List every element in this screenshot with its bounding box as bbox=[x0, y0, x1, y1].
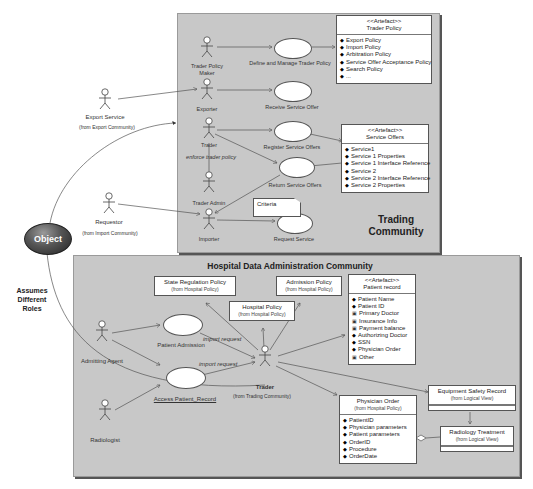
import-request-label-1: import request bbox=[203, 336, 241, 343]
list-item: Import Policy bbox=[340, 44, 429, 51]
enforce-trader-policy-label: enforce trader policy bbox=[186, 154, 236, 161]
actor-trader-admin-icon bbox=[202, 171, 216, 193]
use-case-register-service-offers[interactable] bbox=[274, 121, 312, 142]
use-case-define-manage-policy-label: Define and Manage Trader Policy bbox=[249, 60, 331, 67]
trading-community-title: Trading Community bbox=[358, 214, 434, 238]
actor-trader-policy-maker-icon bbox=[200, 36, 214, 58]
admission-policy[interactable]: Admission Policy (from Hospital Policy) bbox=[276, 276, 342, 296]
list-item: SSN bbox=[352, 339, 413, 346]
patient-record-items: Patient Name Patient ID Primary Doctor I… bbox=[349, 294, 415, 364]
list-item: Search Policy bbox=[340, 66, 429, 73]
state-regulation-policy[interactable]: State Regulation Policy (from Hospital P… bbox=[154, 276, 236, 296]
actor-trader-hospital-icon bbox=[258, 345, 272, 367]
actor-importer-icon bbox=[202, 208, 216, 230]
importer-label: Importer bbox=[199, 236, 219, 243]
actor-requestor-icon bbox=[102, 192, 116, 214]
patient-record-artifact[interactable]: <<Artefact>> Patient record Patient Name… bbox=[348, 274, 416, 365]
list-item: Authorizing Doctor bbox=[352, 332, 413, 339]
use-case-register-service-offers-label: Register Service Offers bbox=[264, 144, 321, 151]
list-item: Service1 bbox=[345, 146, 426, 153]
trader-policy-maker-label: Trader Policy Maker bbox=[191, 63, 223, 77]
equipment-safety-record-class[interactable]: Equipment Safety Record (from Logical Vi… bbox=[428, 385, 516, 411]
trader-label: Trader bbox=[201, 142, 217, 149]
list-item: Procedure bbox=[343, 446, 414, 453]
trader-hospital-from: (from Trading Community) bbox=[233, 393, 291, 400]
list-item: Physician Order bbox=[352, 346, 413, 353]
actor-exporter-icon bbox=[200, 78, 214, 100]
use-case-receive-service-offer-label: Receive Service Offer bbox=[265, 104, 318, 111]
radiology-treatment-class[interactable]: Radiology Treatment (from Logical View) bbox=[440, 426, 514, 452]
list-item: Patient Name bbox=[352, 296, 413, 303]
actor-admitting-agent-icon bbox=[95, 320, 109, 342]
radiologist-label: Radiologist bbox=[90, 437, 120, 444]
list-item: Export Policy bbox=[340, 37, 429, 44]
list-item: Service 2 bbox=[345, 168, 426, 175]
admitting-agent-label: Admitting Agent bbox=[81, 358, 123, 365]
requestor-from: (from Import Community) bbox=[82, 230, 138, 237]
list-item: Physician parameters bbox=[343, 424, 414, 431]
trader-hospital-label: Trader bbox=[256, 384, 274, 391]
trader-policy-items: Export Policy Import Policy Arbitration … bbox=[337, 35, 431, 83]
use-case-return-service-offers-label: Return Service Offers bbox=[269, 182, 322, 189]
export-service-label: Export Service bbox=[85, 114, 124, 121]
use-case-request-service-label: Request Service bbox=[274, 236, 314, 243]
use-case-define-manage-policy[interactable] bbox=[274, 38, 312, 59]
list-item: Patient parameters bbox=[343, 431, 414, 438]
criteria-note: Criteria bbox=[253, 198, 301, 217]
trader-admin-label: Trader Admin bbox=[193, 200, 226, 207]
list-item: PatientID bbox=[343, 417, 414, 424]
list-item: Service 2 Interface Reference bbox=[345, 175, 426, 182]
use-case-return-service-offers[interactable] bbox=[279, 157, 315, 178]
actor-radiologist-icon bbox=[98, 399, 112, 421]
list-item: OrderID bbox=[343, 439, 414, 446]
object-node: Object bbox=[24, 223, 72, 255]
list-item: Service 2 Properties bbox=[345, 182, 426, 189]
assumes-roles-caption: Assumes Different Roles bbox=[16, 286, 47, 313]
use-case-patient-admission-label: Patient Admission bbox=[157, 342, 205, 349]
list-item-locked: Primary Doctor bbox=[352, 310, 413, 317]
list-item: Service Offer Acceptance Policy bbox=[340, 59, 429, 66]
requestor-label: Requestor bbox=[95, 219, 123, 226]
list-item: Service 1 Interface Reference bbox=[345, 160, 426, 167]
export-service-from: (from Export Community) bbox=[79, 124, 135, 131]
list-item: OrderDate bbox=[343, 453, 414, 460]
list-item: Patient ID bbox=[352, 303, 413, 310]
list-item: Arbitration Policy bbox=[340, 51, 429, 58]
list-item: ... bbox=[340, 73, 429, 80]
use-case-receive-service-offer[interactable] bbox=[274, 81, 312, 102]
list-item-locked: Insurance Info bbox=[352, 318, 413, 325]
hospital-community-title: Hospital Data Administration Community bbox=[180, 260, 400, 272]
use-case-patient-admission[interactable] bbox=[163, 314, 203, 336]
service-offers-items: Service1 Service 1 Properties Service 1 … bbox=[342, 144, 428, 192]
service-offers-artifact[interactable]: <<Artefact>> Service Offers Service1 Ser… bbox=[341, 124, 429, 193]
actor-export-service-icon bbox=[98, 88, 112, 110]
physician-order-items: PatientID Physician parameters Patient p… bbox=[340, 415, 416, 463]
list-item-locked: Payment balance bbox=[352, 325, 413, 332]
physician-order-class[interactable]: Physician Order (from Hospital Policy) P… bbox=[339, 395, 417, 464]
use-case-access-patient-record-label: Access Patient_Record bbox=[154, 396, 216, 403]
import-request-label-2: import request bbox=[199, 361, 237, 368]
actor-trader-icon bbox=[202, 117, 216, 139]
use-case-access-patient-record[interactable] bbox=[166, 367, 206, 389]
list-item: Service 1 Properties bbox=[345, 153, 426, 160]
exporter-label: Exporter bbox=[197, 106, 218, 113]
trader-policy-artifact[interactable]: <<Artefact>> Trader Policy Export Policy… bbox=[336, 15, 432, 84]
hospital-policy[interactable]: Hospital Policy (from Hospital Policy) bbox=[229, 301, 295, 321]
list-item-locked: Other bbox=[352, 354, 413, 361]
